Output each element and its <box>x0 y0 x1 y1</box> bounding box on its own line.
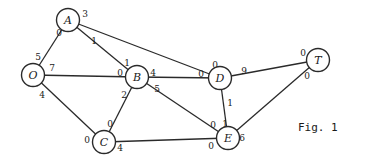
node-c: C <box>93 131 116 154</box>
node-label: A <box>63 14 72 27</box>
node-o: O <box>22 64 45 87</box>
edge-weight-label: 0 <box>198 69 204 79</box>
edge-weight-label: 4 <box>117 143 123 153</box>
edge-weight-label: 9 <box>241 66 247 76</box>
edge-weight-label: 5 <box>154 84 160 94</box>
edge-weight-label: 1 <box>227 98 233 108</box>
edge-a-b <box>68 20 137 77</box>
edge-weight-label: 4 <box>39 90 45 100</box>
node-label: B <box>132 71 141 84</box>
edge-weight-label: 0 <box>208 141 214 151</box>
graph-diagram: 031574104250040091010600 AOBCDET Fig. 1 <box>0 0 372 161</box>
edges <box>33 20 318 142</box>
edge-weight-label: 7 <box>49 63 55 73</box>
edge-weight-label: 0 <box>107 119 113 129</box>
node-b: B <box>126 66 149 89</box>
node-label: E <box>223 132 232 145</box>
node-a: A <box>57 9 80 32</box>
node-label: O <box>28 69 37 82</box>
node-label: D <box>215 72 225 85</box>
edge-weight-label: 4 <box>150 68 156 78</box>
edge-weight-label: 3 <box>82 9 88 19</box>
edge-weight-labels: 031574104250040091010600 <box>35 9 310 153</box>
edge-weight-label: 0 <box>84 135 90 145</box>
node-t: T <box>307 49 330 72</box>
node-d: D <box>209 67 232 90</box>
edge-weight-label: 0 <box>210 120 216 130</box>
edge-o-c <box>33 75 104 142</box>
figure-caption: Fig. 1 <box>298 121 338 134</box>
edge-weight-label: 2 <box>121 90 127 100</box>
edge-weight-label: 1 <box>91 36 97 46</box>
edge-weight-label: 0 <box>300 48 306 58</box>
edge-weight-label: 5 <box>35 52 41 62</box>
node-e: E <box>217 127 240 150</box>
node-label: C <box>100 136 109 149</box>
edge-weight-label: 0 <box>117 68 123 78</box>
edge-weight-label: 1 <box>124 58 130 68</box>
edge-weight-label: 0 <box>304 71 310 81</box>
nodes: AOBCDET <box>22 9 330 154</box>
